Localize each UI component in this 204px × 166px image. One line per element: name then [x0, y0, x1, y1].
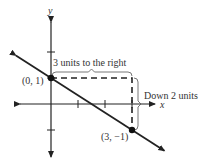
rise-annotation: Down 2 units: [144, 90, 198, 101]
run-annotation: 3 units to the right: [53, 57, 127, 68]
run-brace: [52, 69, 132, 76]
line-series: [16, 55, 165, 150]
point-label-3-neg1: (3, −1): [101, 131, 128, 143]
y-axis-label: y: [47, 5, 53, 16]
graph: x y 3 units to the right Down 2 units (0…: [0, 0, 204, 166]
data-point: [129, 127, 135, 133]
data-point: [48, 75, 54, 81]
point-label-0-1: (0, 1): [22, 75, 44, 87]
